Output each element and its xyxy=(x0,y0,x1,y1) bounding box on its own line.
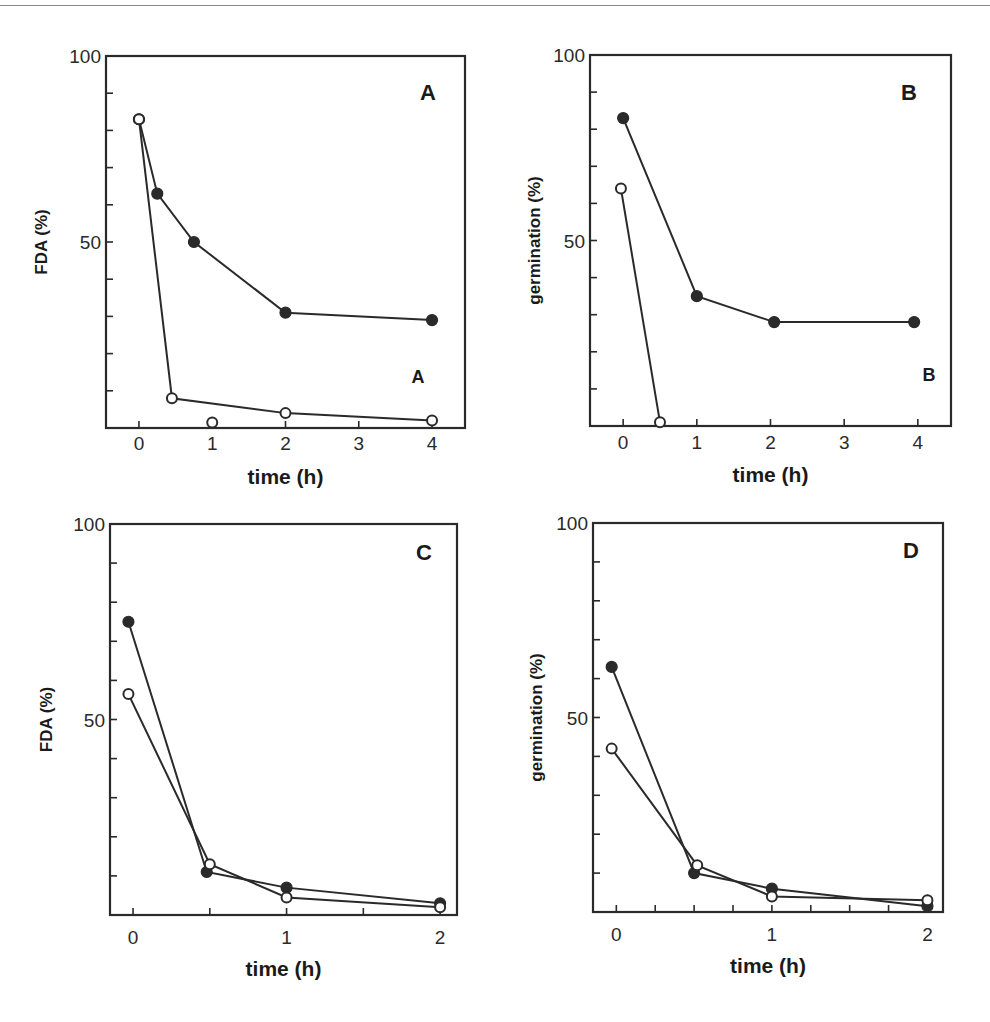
open-circle-marker xyxy=(767,891,777,901)
open-circle-marker xyxy=(435,902,445,912)
x-tick-label: 0 xyxy=(611,924,622,945)
panel-annotation: A xyxy=(412,367,425,387)
series-line-open xyxy=(621,189,660,423)
series-line-open xyxy=(128,694,440,907)
open-circle-marker xyxy=(123,689,133,699)
filled-circle-marker xyxy=(427,315,438,326)
y-tick-label: 50 xyxy=(84,710,105,731)
y-axis-title: germination (%) xyxy=(527,653,546,781)
x-tick-label: 2 xyxy=(435,927,446,948)
x-tick-label: 1 xyxy=(692,432,703,453)
y-tick-label: 100 xyxy=(73,514,105,535)
open-circle-marker xyxy=(427,416,437,426)
y-tick-label: 100 xyxy=(553,45,585,66)
y-tick-label: 100 xyxy=(556,513,588,534)
series-line-filled xyxy=(612,667,928,906)
y-axis-title: FDA (%) xyxy=(32,209,51,274)
open-circle-marker xyxy=(207,417,217,427)
x-tick-label: 2 xyxy=(280,433,291,454)
x-tick-label: 2 xyxy=(765,432,776,453)
chart-panel-d: 10050012time (h)germination (%)D xyxy=(527,513,943,977)
x-tick-label: 3 xyxy=(839,432,850,453)
chart-panel-a: 1005001234time (h)FDA (%)AA xyxy=(32,46,465,488)
open-circle-marker xyxy=(167,393,177,403)
series-line-filled xyxy=(623,118,914,322)
x-tick-label: 1 xyxy=(281,927,292,948)
filled-circle-marker xyxy=(606,661,617,672)
open-circle-marker xyxy=(134,114,144,124)
plot-frame xyxy=(590,55,951,426)
panel-label: C xyxy=(416,540,432,565)
x-axis-title: time (h) xyxy=(248,465,324,488)
x-tick-label: 0 xyxy=(618,432,629,453)
x-axis-title: time (h) xyxy=(246,957,322,980)
y-tick-label: 100 xyxy=(69,46,101,67)
panel-label: A xyxy=(420,80,436,105)
panel-annotation: B xyxy=(923,365,936,385)
open-circle-marker xyxy=(607,744,617,754)
y-tick-label: 50 xyxy=(80,232,101,253)
x-tick-label: 0 xyxy=(134,433,145,454)
filled-circle-marker xyxy=(909,317,920,328)
x-tick-label: 1 xyxy=(767,924,778,945)
open-circle-marker xyxy=(692,860,702,870)
open-circle-marker xyxy=(205,859,215,869)
chart-panel-b: 1005001234time (h)germination (%)BB xyxy=(525,45,951,486)
y-tick-label: 50 xyxy=(564,231,585,252)
plot-frame xyxy=(110,524,457,915)
y-tick-label: 50 xyxy=(567,708,588,729)
filled-circle-marker xyxy=(618,113,629,124)
x-axis-title: time (h) xyxy=(733,463,809,486)
x-tick-label: 3 xyxy=(353,433,364,454)
series-line-open xyxy=(139,119,432,420)
filled-circle-marker xyxy=(280,307,291,318)
filled-circle-marker xyxy=(152,188,163,199)
series-line-filled xyxy=(139,119,432,320)
x-tick-label: 1 xyxy=(207,433,218,454)
open-circle-marker xyxy=(655,417,665,427)
x-tick-label: 2 xyxy=(922,924,933,945)
filled-circle-marker xyxy=(123,616,134,627)
y-axis-title: germination (%) xyxy=(525,176,544,304)
chart-panel-c: 10050012time (h)FDA (%)C xyxy=(37,514,457,980)
x-tick-label: 4 xyxy=(427,433,438,454)
panel-label: D xyxy=(903,538,919,563)
series-line-open xyxy=(612,749,928,901)
x-axis-title: time (h) xyxy=(730,954,806,977)
open-circle-marker xyxy=(282,892,292,902)
panel-label: B xyxy=(901,80,917,105)
x-tick-label: 0 xyxy=(128,927,139,948)
open-circle-marker xyxy=(922,895,932,905)
filled-circle-marker xyxy=(691,291,702,302)
series-line-filled xyxy=(128,622,440,904)
filled-circle-marker xyxy=(769,317,780,328)
x-tick-label: 4 xyxy=(913,432,924,453)
open-circle-marker xyxy=(281,408,291,418)
open-circle-marker xyxy=(616,184,626,194)
plot-frame xyxy=(593,523,943,912)
figure: 1005001234time (h)FDA (%)AA1005001234tim… xyxy=(0,0,990,1022)
y-axis-title: FDA (%) xyxy=(37,687,56,752)
filled-circle-marker xyxy=(188,237,199,248)
